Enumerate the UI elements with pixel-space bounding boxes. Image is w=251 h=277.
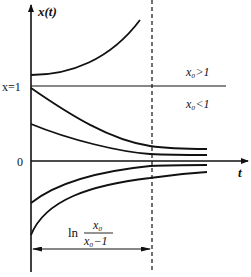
curve-start-one: [31, 88, 207, 149]
fraction-denominator: x₀−1: [83, 234, 108, 248]
t-axis-label: t: [238, 165, 242, 180]
y-axis-label: x(t): [37, 4, 57, 19]
curve-start-half: [31, 124, 207, 155]
ln-label: ln: [68, 225, 79, 240]
fixed-point-label: x=1: [2, 80, 21, 94]
region-above-label: x₀>1: [185, 65, 210, 79]
curve-above-one: [31, 20, 140, 75]
region-below-label: x₀<1: [185, 97, 210, 111]
fraction-numerator: x₀: [92, 218, 103, 232]
origin-label: 0: [17, 155, 23, 169]
curve-start-negative-1: [31, 165, 207, 203]
phase-diagram: x(t) t 0 x=1 x₀>1 x₀<1 ln x₀ x₀−1: [0, 0, 251, 277]
curve-start-negative-2: [31, 172, 207, 235]
